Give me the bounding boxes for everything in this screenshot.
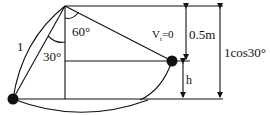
label-h: h <box>186 74 192 86</box>
label-angle-60: 60° <box>72 25 90 38</box>
label-length: 1 <box>17 40 24 53</box>
ball-right <box>167 56 178 67</box>
label-angle-30: 30° <box>43 50 61 63</box>
swing-arc-bottom <box>13 99 148 112</box>
swing-arc-right <box>140 61 172 100</box>
label-05m: 0.5m <box>189 28 215 41</box>
ball-left <box>8 94 19 105</box>
label-lcos30: 1cos30° <box>224 46 266 59</box>
angle-60-arc <box>65 13 78 18</box>
label-velocity: Vt=0 <box>152 29 174 43</box>
angle-30-arc <box>48 36 65 42</box>
